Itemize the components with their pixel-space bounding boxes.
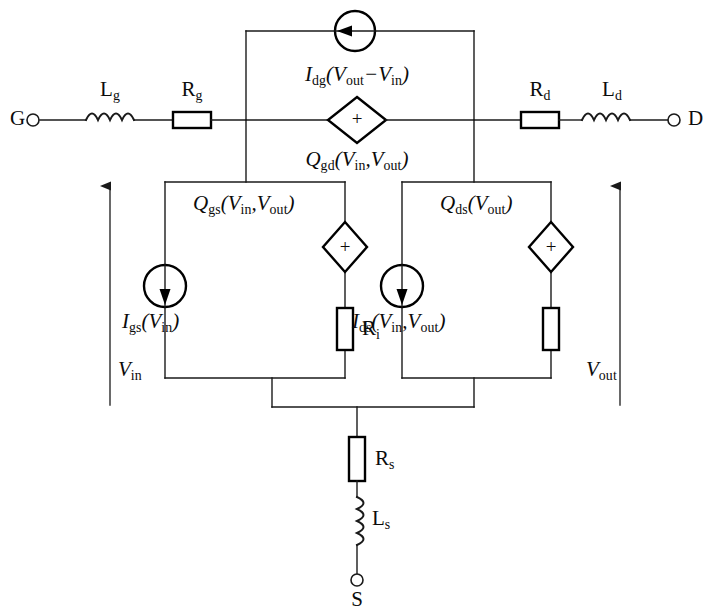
source-label-qgs-arg: (V [221, 191, 241, 215]
source-label-qgs-arg-sub2: out [270, 202, 288, 217]
source-label-ids-arg-sub1: in [391, 320, 402, 335]
polarity-plus-qgs: + [340, 237, 351, 256]
source-label-igs-sub: gs [129, 320, 142, 335]
source-label-ids-arg: (V [372, 309, 392, 333]
component-label-rd-main: R [529, 77, 543, 101]
source-label-qgd-arg-close: ) [402, 147, 409, 171]
component-label-ld: Ld [602, 79, 622, 103]
component-label-rs: Rs [375, 448, 395, 472]
terminal-drain-circle [668, 114, 680, 126]
component-label-rg: Rg [181, 79, 202, 103]
source-label-qgd: Qgd(Vin,Vout) [305, 149, 408, 173]
source-label-qgs: Qgs(Vin,Vout) [193, 193, 295, 217]
source-label-qgs-arg-sub1: in [241, 202, 252, 217]
terminal-label-source: S [351, 589, 363, 610]
component-label-rd-sub: d [543, 88, 550, 103]
source-label-ids-sub: ds [359, 320, 372, 335]
component-label-lg-sub: g [113, 88, 120, 103]
source-label-qds-arg: (V [468, 191, 488, 215]
source-label-idg-arg-mid: −V [364, 62, 391, 86]
source-label-qds-sub: ds [455, 202, 468, 217]
source-label-qgd-symbol: Q [305, 147, 320, 171]
source-label-idg-arg-sub2: in [391, 73, 402, 88]
component-label-ld-sub: d [615, 88, 622, 103]
source-label-ids-arg-mid: ,V [402, 309, 420, 333]
source-label-qgd-sub: gd [321, 158, 335, 173]
voltage-label-vin: Vin [118, 359, 142, 383]
resistor-rs-body [349, 437, 365, 481]
source-label-igs-symbol: I [122, 309, 129, 333]
source-label-qds-arg-close: ) [506, 191, 513, 215]
source-label-igs-arg: (V [142, 309, 162, 333]
source-label-idg-arg: (V [326, 62, 346, 86]
source-label-ids-arg-sub2: out [420, 320, 438, 335]
source-label-ids-arg-close: ) [438, 309, 445, 333]
source-label-igs-arg-close: ) [172, 309, 179, 333]
component-label-rg-main: R [181, 77, 195, 101]
source-label-qgs-arg-close: ) [288, 191, 295, 215]
inductor-ld-coil [582, 114, 630, 121]
source-label-ids: Ids(Vin,Vout) [352, 311, 445, 335]
component-label-rg-sub: g [195, 88, 202, 103]
terminal-source-circle [351, 574, 363, 586]
resistor-ri-body [337, 308, 353, 350]
source-label-idg: Idg(Vout−Vin) [305, 64, 409, 88]
source-label-ids-symbol: I [352, 309, 359, 333]
component-label-ls: Ls [372, 508, 390, 532]
source-label-idg-symbol: I [305, 62, 312, 86]
source-label-qds-symbol: Q [440, 191, 455, 215]
component-label-rs-main: R [375, 446, 389, 470]
component-label-ld-main: L [602, 77, 615, 101]
source-label-qgd-arg-mid: ,V [365, 147, 383, 171]
voltage-label-vin-symbol: V [118, 357, 131, 381]
component-label-rs-sub: s [389, 457, 395, 472]
circuit-diagram: G D S Lg Rg Rd Ld Ri Rs Ls Idg(Vout−Vin)… [0, 0, 708, 615]
source-label-qds: Qds(Vout) [440, 193, 513, 217]
source-label-qds-arg-sub1: out [488, 202, 506, 217]
resistor-rg-body [173, 112, 211, 128]
source-label-qgs-arg-mid: ,V [252, 191, 270, 215]
polarity-plus-qds: + [546, 237, 557, 256]
source-label-qgd-arg-sub1: in [354, 158, 365, 173]
voltage-label-vout-sub: out [599, 368, 617, 383]
component-label-rd: Rd [529, 79, 550, 103]
inductor-ls-coil [357, 497, 364, 545]
source-label-qgd-arg-sub2: out [384, 158, 402, 173]
voltage-label-vin-sub: in [131, 368, 142, 383]
resistor-ds-body [543, 308, 559, 350]
source-label-idg-arg-close: ) [402, 62, 409, 86]
source-label-qgs-sub: gs [208, 202, 221, 217]
source-label-qgs-symbol: Q [193, 191, 208, 215]
terminal-label-gate: G [10, 108, 25, 129]
component-label-lg-main: L [100, 77, 113, 101]
terminal-label-drain: D [688, 108, 703, 129]
source-label-idg-arg-sub1: out [346, 73, 364, 88]
component-label-ls-sub: s [385, 517, 391, 532]
component-label-lg: Lg [100, 79, 120, 103]
terminal-gate-circle [27, 114, 39, 126]
source-label-igs-arg-sub1: in [161, 320, 172, 335]
resistor-rd-body [521, 112, 559, 128]
source-label-igs: Igs(Vin) [122, 311, 179, 335]
component-label-ls-main: L [372, 506, 385, 530]
inductor-lg-coil [86, 114, 134, 121]
source-label-qgd-arg: (V [335, 147, 355, 171]
polarity-plus-qgd: + [352, 109, 363, 128]
source-label-idg-sub: dg [312, 73, 326, 88]
voltage-label-vout-symbol: V [586, 357, 599, 381]
voltage-label-vout: Vout [586, 359, 617, 383]
